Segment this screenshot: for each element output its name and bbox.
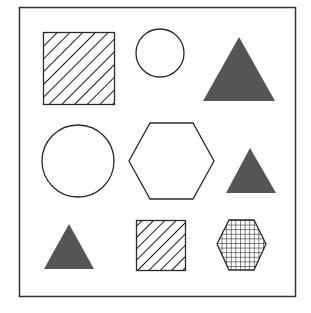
- circle-small: [136, 29, 184, 77]
- triangle-small: [44, 224, 94, 269]
- triangle-medium: [226, 148, 276, 193]
- hexagon-large: [129, 123, 214, 199]
- triangle-large: [203, 37, 275, 101]
- grid-hexagon-small: [217, 220, 266, 270]
- hatched-square-small: [137, 221, 186, 271]
- shape-diagram: [0, 0, 311, 313]
- circle-large: [42, 125, 114, 197]
- hatched-square-large: [44, 33, 115, 105]
